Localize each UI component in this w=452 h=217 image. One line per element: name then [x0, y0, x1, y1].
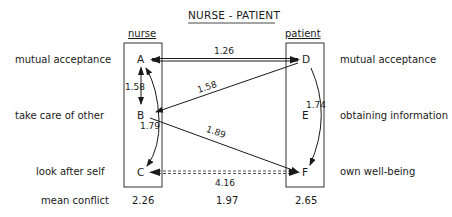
edge-f-c — [149, 169, 300, 177]
edge-d-f-curve — [310, 68, 321, 165]
edge-b-a-curve — [146, 68, 159, 120]
right-label-obtaining-information: obtaining information — [340, 110, 448, 122]
edge-b-f — [150, 118, 298, 172]
left-label-take-care-of-other: take care of other — [15, 110, 104, 122]
weight-d-f: 1.74 — [306, 99, 326, 111]
weight-d-a: 1.26 — [214, 45, 234, 57]
right-label-mutual-acceptance: mutual acceptance — [340, 54, 436, 66]
mean-conflict-patient: 2.65 — [295, 195, 317, 207]
column-header-patient: patient — [285, 28, 321, 40]
node-f: F — [302, 166, 308, 178]
node-c: C — [137, 166, 144, 178]
diagram-title: NURSE - PATIENT — [188, 9, 280, 21]
left-label-mean-conflict: mean conflict — [41, 195, 109, 207]
weight-b-c: 1.79 — [140, 120, 160, 132]
column-header-nurse: nurse — [128, 28, 156, 40]
weight-a-b: 1.58 — [125, 81, 145, 93]
weight-f-c: 4.16 — [215, 177, 235, 189]
left-label-mutual-acceptance: mutual acceptance — [15, 54, 111, 66]
edge-d-b — [156, 63, 298, 112]
edge-d-a — [150, 56, 300, 64]
left-label-look-after-self: look after self — [36, 166, 104, 178]
mean-conflict-middle: 1.97 — [216, 195, 238, 207]
node-a: A — [137, 53, 144, 65]
node-d: D — [302, 53, 310, 65]
mean-conflict-nurse: 2.26 — [132, 195, 154, 207]
right-label-own-well-being: own well-being — [340, 166, 415, 178]
